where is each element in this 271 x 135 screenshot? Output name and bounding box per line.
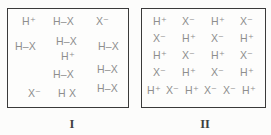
x-minus-ion: X⁻ [28,88,41,99]
hx-molecule: H–X [15,41,36,52]
h-plus-ion: H⁺ [211,16,225,27]
x-minus-ion: X⁻ [182,50,195,61]
h-plus-ion: H⁺ [240,33,254,44]
hx-molecule: H–X [53,16,74,27]
x-minus-ion: X⁻ [153,33,166,44]
h-plus-ion: H⁺ [153,50,167,61]
hx-molecule: H–X [97,64,118,75]
hx-molecule: H–X [56,36,77,47]
x-minus-ion: X⁻ [182,16,195,27]
x-minus-ion: X⁻ [240,16,253,27]
x-minus-ion: X⁻ [211,33,224,44]
h-plus-ion: H⁺ [211,50,225,61]
container-box-1: H⁺H–XX⁻H–XH–XH–XH⁺H–XH–XX⁻H XH–X [7,8,129,108]
h-plus-ion: H⁺ [61,51,75,62]
ionization-comparison-figure: H⁺H–XX⁻H–XH–XH–XH⁺H–XH–XX⁻H XH–X H⁺X⁻H⁺X… [0,0,271,135]
x-minus-ion: X⁻ [211,67,224,78]
h-plus-ion: H⁺ [182,33,196,44]
container-box-2: H⁺X⁻H⁺X⁻X⁻H⁺X⁻H⁺H⁺X⁻H⁺X⁻X⁻H⁺X⁻H⁺H⁺X⁻H⁺X⁻… [141,8,266,108]
h-plus-ion: H⁺ [242,85,256,96]
h-plus-ion: H⁺ [185,85,199,96]
x-minus-ion: X⁻ [166,85,179,96]
h-plus-ion: H⁺ [182,67,196,78]
h-plus-ion: H⁺ [153,16,167,27]
h-plus-ion: H⁺ [240,67,254,78]
box-label-1: I [52,117,92,132]
h-plus-ion: H⁺ [147,85,161,96]
box-label-2: II [185,117,225,132]
hx-molecule: H X [58,88,76,99]
x-minus-ion: X⁻ [240,50,253,61]
hx-molecule: H–X [98,41,119,52]
x-minus-ion: X⁻ [96,16,109,27]
x-minus-ion: X⁻ [153,67,166,78]
h-plus-ion: H⁺ [22,16,36,27]
x-minus-ion: X⁻ [204,85,217,96]
hx-molecule: H–X [53,69,74,80]
hx-molecule: H–X [97,83,118,94]
x-minus-ion: X⁻ [223,85,236,96]
